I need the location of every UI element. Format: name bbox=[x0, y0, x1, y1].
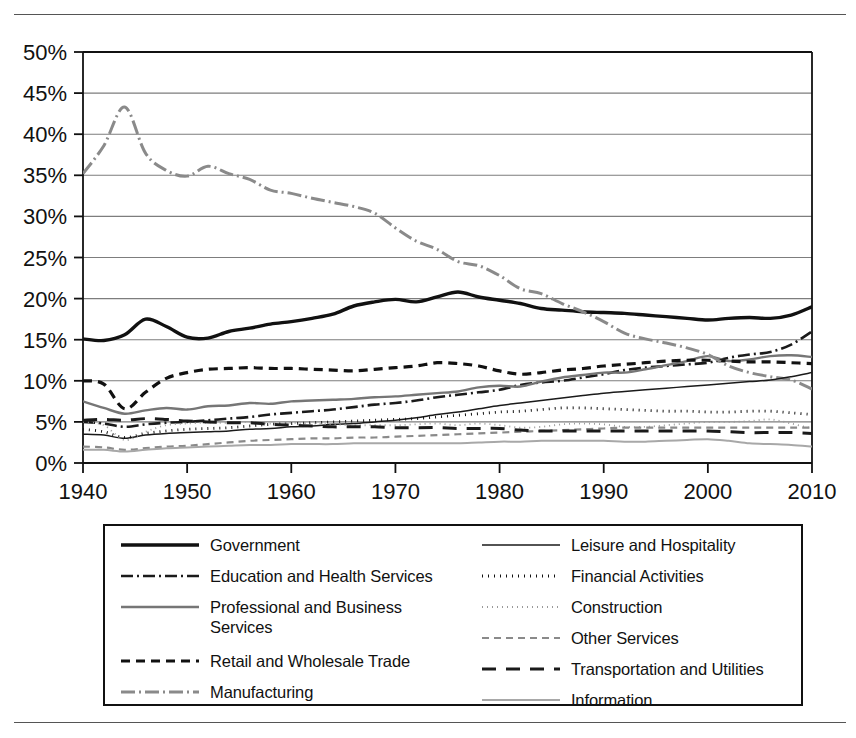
legend-item[interactable]: Information bbox=[480, 690, 801, 713]
legend-columns: GovernmentEducation and Health ServicesP… bbox=[105, 535, 801, 704]
legend-item-label: Construction bbox=[571, 597, 662, 617]
legend-item[interactable]: Retail and Wholesale Trade bbox=[119, 651, 478, 674]
legend-swatch-line-icon bbox=[480, 690, 562, 710]
x-axis-tick-label: 1990 bbox=[579, 479, 628, 504]
legend-swatch-line-icon bbox=[480, 628, 562, 648]
legend-item-label: Financial Activities bbox=[571, 566, 704, 586]
y-axis-tick-label: 15% bbox=[23, 328, 67, 353]
legend-item-label: Transportation and Utilities bbox=[571, 659, 764, 679]
series-line bbox=[83, 360, 812, 409]
legend-item-label: Retail and Wholesale Trade bbox=[210, 651, 410, 671]
legend-item[interactable]: Other Services bbox=[480, 628, 801, 651]
legend-column: GovernmentEducation and Health ServicesP… bbox=[105, 535, 478, 704]
series-line bbox=[83, 419, 812, 434]
figure-container: 0%5%10%15%20%25%30%35%40%45%50%194019501… bbox=[0, 0, 856, 738]
y-axis-tick-label: 20% bbox=[23, 287, 67, 312]
x-axis-tick-label: 1960 bbox=[267, 479, 316, 504]
legend-item[interactable]: Leisure and Hospitality bbox=[480, 535, 801, 558]
x-axis-tick-label: 2010 bbox=[788, 479, 837, 504]
y-axis-tick-label: 50% bbox=[23, 40, 67, 65]
line-chart-svg: 0%5%10%15%20%25%30%35%40%45%50%194019501… bbox=[0, 22, 856, 512]
y-axis-tick-label: 25% bbox=[23, 246, 67, 271]
x-axis-tick-label: 1980 bbox=[475, 479, 524, 504]
legend-swatch-line-icon bbox=[480, 535, 562, 555]
legend-swatch-line-icon bbox=[480, 566, 562, 586]
legend-item-label: Information bbox=[571, 690, 652, 710]
legend-item-label: Other Services bbox=[571, 628, 679, 648]
legend-swatch-line-icon bbox=[480, 597, 562, 617]
legend-item[interactable]: Education and Health Services bbox=[119, 566, 478, 589]
legend-swatch-line-icon bbox=[119, 566, 201, 586]
legend-item-label: Leisure and Hospitality bbox=[571, 535, 736, 555]
legend-item-label: Government bbox=[210, 535, 300, 555]
chart-legend: GovernmentEducation and Health ServicesP… bbox=[103, 524, 803, 706]
y-axis-tick-label: 35% bbox=[23, 163, 67, 188]
legend-item[interactable]: Transportation and Utilities bbox=[480, 659, 801, 682]
series-line bbox=[83, 107, 812, 389]
top-horizontal-rule bbox=[14, 14, 846, 15]
y-axis-tick-label: 0% bbox=[35, 451, 67, 476]
y-axis-tick-label: 5% bbox=[35, 410, 67, 435]
x-axis-tick-label: 1940 bbox=[59, 479, 108, 504]
x-axis-tick-label: 2000 bbox=[683, 479, 732, 504]
legend-swatch-line-icon bbox=[119, 682, 201, 702]
legend-swatch-line-icon bbox=[119, 535, 201, 555]
chart-plot-area: 0%5%10%15%20%25%30%35%40%45%50%194019501… bbox=[0, 22, 856, 512]
series-line bbox=[83, 292, 812, 341]
legend-item[interactable]: Manufacturing bbox=[119, 682, 478, 705]
y-axis-tick-label: 45% bbox=[23, 81, 67, 106]
legend-item-label: Manufacturing bbox=[210, 682, 313, 702]
legend-item[interactable]: Professional and Business Services bbox=[119, 597, 478, 643]
legend-swatch-line-icon bbox=[119, 651, 201, 671]
y-axis-tick-label: 10% bbox=[23, 369, 67, 394]
legend-swatch-line-icon bbox=[480, 659, 562, 679]
legend-item-label: Professional and Business Services bbox=[210, 597, 402, 637]
y-axis-tick-label: 40% bbox=[23, 122, 67, 147]
x-axis-tick-label: 1970 bbox=[371, 479, 420, 504]
legend-item[interactable]: Construction bbox=[480, 597, 801, 620]
y-axis-tick-label: 30% bbox=[23, 204, 67, 229]
bottom-horizontal-rule bbox=[14, 722, 846, 723]
x-axis-tick-label: 1950 bbox=[163, 479, 212, 504]
legend-item-label: Education and Health Services bbox=[210, 566, 433, 586]
series-group bbox=[83, 107, 812, 451]
legend-swatch-line-icon bbox=[119, 597, 201, 617]
legend-column: Leisure and HospitalityFinancial Activit… bbox=[478, 535, 801, 704]
legend-item[interactable]: Government bbox=[119, 535, 478, 558]
legend-item[interactable]: Financial Activities bbox=[480, 566, 801, 589]
